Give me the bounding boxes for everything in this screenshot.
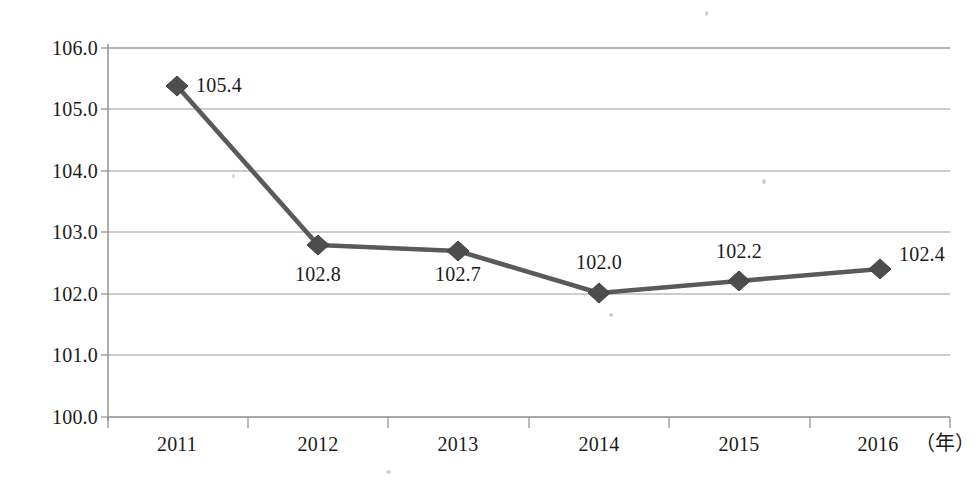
y-axis-label-104: 104.0 [30,161,98,181]
scan-speck-4 [386,470,391,474]
chart-canvas [0,0,978,490]
data-marker-2015[interactable] [728,271,750,291]
y-axis-label-100: 100.0 [30,407,98,427]
scan-speck-2 [762,179,766,184]
data-label-2011: 105.4 [156,75,266,95]
data-marker-2014[interactable] [588,283,610,303]
x-axis-label-2016: 2016 [838,434,918,454]
y-axis-label-101: 101.0 [30,345,98,365]
data-line [177,86,880,293]
data-label-2013: 102.7 [408,264,508,284]
data-label-2015: 102.2 [689,241,789,261]
data-marker-2013[interactable] [447,241,469,261]
scan-speck-3 [232,174,235,178]
y-axis-label-106: 106.0 [30,38,98,58]
data-label-2014: 102.0 [549,252,649,272]
scan-speck-1 [705,11,708,16]
data-label-2012: 102.8 [268,264,368,284]
x-axis-label-2015: 2015 [699,434,779,454]
x-axis-label-2014: 2014 [559,434,639,454]
x-axis-label-2013: 2013 [418,434,498,454]
data-label-2016: 102.4 [899,244,978,264]
x-axis-label-2012: 2012 [278,434,358,454]
x-axis-ticks [108,417,950,428]
x-axis-unit-label: （年） [915,433,975,453]
scan-speck-5 [609,313,613,317]
data-marker-2016[interactable] [869,259,891,279]
y-axis-label-102: 102.0 [30,284,98,304]
y-axis-label-103: 103.0 [30,222,98,242]
line-chart: 106.0 105.0 104.0 103.0 102.0 101.0 100.… [0,0,978,490]
x-axis-label-2011: 2011 [137,434,217,454]
y-axis-label-105: 105.0 [30,99,98,119]
y-axis-ticks [101,48,108,417]
